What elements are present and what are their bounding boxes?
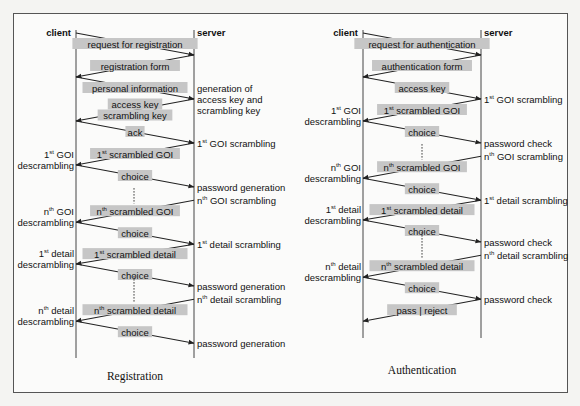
message-label: registration form (101, 61, 170, 72)
server-note: 1st detail scrambling (197, 239, 281, 250)
client-note: descrambling (18, 217, 75, 228)
message-arrow: registration form (76, 55, 194, 77)
message-label: 1st scrambled GOI (97, 149, 174, 160)
message-label: ack (128, 127, 143, 138)
message-arrow: nth scrambled GOI (76, 200, 194, 222)
message-label: choice (121, 171, 148, 182)
client-note: descrambling (305, 215, 362, 226)
message-arrow: 1st scrambled detail (363, 200, 481, 220)
message-arrow: 1st scrambled detail (76, 244, 194, 264)
server-note: password check (484, 138, 552, 149)
client-note: descrambling (18, 316, 75, 327)
message-label: access key (112, 99, 159, 110)
server-note: generation of (197, 83, 253, 94)
message-arrow: 1st scrambled GOI (76, 143, 194, 165)
message-arrow: authentication form (363, 55, 481, 77)
client-note: 1st GOI (331, 105, 361, 116)
client-note: descrambling (18, 259, 75, 270)
message-label: request for registration (87, 39, 182, 50)
message-label: request for authentication (368, 39, 475, 50)
client-heading: client (46, 27, 72, 38)
message-arrow: choice (76, 222, 194, 244)
message-label: nth scrambled GOI (97, 206, 174, 217)
message-label: nth scrambled GOI (384, 162, 461, 173)
authentication-messages: request for authenticationauthentication… (305, 33, 569, 321)
message-label: 1st scrambled GOI (384, 105, 461, 116)
message-label: 1st scrambled detail (381, 205, 463, 216)
message-label: choice (408, 127, 435, 138)
message-arrow: choice (76, 321, 194, 343)
message-arrow: choice (363, 178, 481, 200)
panel-caption: Registration (107, 370, 163, 383)
message-arrow: nth scrambled detail (76, 299, 194, 321)
server-note: scrambling key (197, 105, 261, 116)
message-arrow: request for registration (72, 33, 197, 55)
message-label: choice (408, 283, 435, 294)
message-arrow: pass | reject (363, 299, 481, 321)
client-note: descrambling (305, 272, 362, 283)
authentication-panel: client server Authentication request for… (305, 27, 569, 376)
message-label: scrambling key (103, 110, 167, 121)
server-note: password generation (197, 182, 285, 193)
registration-panel: client server Registration request for r… (18, 27, 286, 383)
client-note: 1st detail (39, 248, 74, 259)
message-arrow: personal information (76, 77, 194, 99)
message-label: authentication form (382, 61, 463, 72)
message-label: choice (408, 226, 435, 237)
server-heading: server (484, 27, 513, 38)
server-note: password check (484, 237, 552, 248)
message-arrow: 1st scrambled GOI (363, 99, 481, 121)
message-label: access key (399, 83, 446, 94)
message-label: choice (408, 184, 435, 195)
message-label: choice (121, 327, 148, 338)
server-note: password generation (197, 281, 285, 292)
message-arrow: choice (76, 264, 194, 286)
client-note: nth GOI (44, 206, 74, 217)
message-label: 1st scrambled detail (94, 249, 176, 260)
message-label: choice (121, 228, 148, 239)
client-note: descrambling (305, 173, 362, 184)
server-note: 1st detail scrambling (484, 195, 568, 206)
server-note: access key and (197, 94, 262, 105)
client-heading: client (333, 27, 359, 38)
client-note: nth GOI (331, 162, 361, 173)
client-note: descrambling (305, 116, 362, 127)
registration-messages: request for registrationregistration for… (18, 33, 286, 349)
message-arrow: choice (363, 121, 481, 143)
message-arrow: choice (363, 277, 481, 299)
client-note: descrambling (18, 160, 75, 171)
message-label: nth scrambled detail (94, 305, 176, 316)
server-note: password generation (197, 338, 285, 349)
message-arrow: ack (76, 121, 194, 143)
message-arrow: choice (76, 165, 194, 187)
message-label: personal information (92, 83, 178, 94)
server-heading: server (197, 27, 226, 38)
server-note: 1st GOI scrambling (484, 94, 563, 105)
message-arrow: access key (363, 77, 481, 99)
client-note: 1st detail (326, 204, 361, 215)
client-note: nth detail (325, 261, 361, 272)
server-note: nth detail scrambling (484, 250, 568, 261)
client-note: nth detail (38, 305, 74, 316)
message-label: choice (121, 270, 148, 281)
server-note: 1st GOI scrambling (197, 138, 276, 149)
server-note: nth detail scrambling (197, 294, 281, 305)
server-note: nth GOI scrambling (197, 195, 276, 206)
message-arrow: access keyscrambling key (76, 99, 194, 122)
message-arrow: request for authentication (354, 33, 489, 55)
client-note: 1st GOI (44, 149, 74, 160)
panel-caption: Authentication (388, 364, 457, 376)
server-note: password check (484, 294, 552, 305)
message-label: nth scrambled detail (381, 261, 463, 272)
sequence-diagrams: client server Registration request for r… (0, 0, 580, 406)
message-label: pass | reject (396, 305, 447, 316)
server-note: nth GOI scrambling (484, 151, 563, 162)
